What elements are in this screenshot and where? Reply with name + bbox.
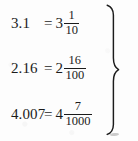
fraction: 16 100 [64, 54, 86, 82]
whole-number: 3 [53, 15, 63, 32]
fraction-denominator: 10 [64, 24, 80, 38]
fraction: 1 10 [64, 9, 80, 37]
fraction-numerator: 16 [67, 54, 83, 68]
whole-number: 4 [53, 106, 63, 123]
whole-number: 2 [53, 60, 63, 77]
right-brace-icon [104, 4, 126, 136]
equals-sign: = [44, 15, 53, 32]
equation-row: 3.1 = 3 1 10 [0, 0, 108, 47]
equals-sign: = [44, 60, 53, 77]
equation-list: 3.1 = 3 1 10 2.16 = 2 16 100 4.007 = 4 [0, 0, 108, 141]
fraction-numerator: 1 [67, 9, 76, 23]
decimal-value: 4.007 [0, 106, 44, 123]
equals-sign: = [44, 106, 53, 123]
fraction-denominator: 1000 [64, 115, 92, 129]
decimal-value: 2.16 [0, 60, 44, 77]
fraction-numerator: 7 [73, 100, 82, 114]
fraction-denominator: 100 [64, 69, 86, 83]
fraction: 7 1000 [64, 100, 92, 128]
decimal-value: 3.1 [0, 15, 44, 32]
equation-row: 2.16 = 2 16 100 [0, 45, 108, 92]
math-figure: 3.1 = 3 1 10 2.16 = 2 16 100 4.007 = 4 [0, 0, 138, 141]
equation-row: 4.007 = 4 7 1000 [0, 91, 108, 138]
